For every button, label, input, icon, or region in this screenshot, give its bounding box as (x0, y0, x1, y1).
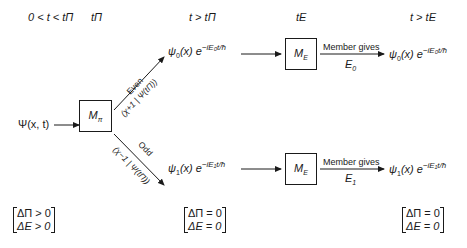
member-gives-top-label: Member gives (323, 42, 380, 52)
state-odd-after-parity: ψ1(x) e−iE₁t/ħ (168, 160, 225, 176)
parity-box-label: Mπ (80, 109, 111, 123)
condition-before-parity: ΔΠ > 0 ΔE > 0 (13, 207, 55, 233)
member-gives-bottom-value: E1 (345, 172, 356, 186)
condition-after-parity: ΔΠ = 0 ΔE = 0 (184, 207, 226, 233)
connector-lines (0, 0, 467, 248)
parity-measurement-box: Mπ (79, 100, 112, 132)
state-final-even: ψ0(x) e−iE₀t/ħ (389, 46, 447, 62)
state-final-odd: ψ1(x) e−iE₁t/ħ (389, 161, 446, 177)
condition-after-energy: ΔΠ = 0 ΔE = 0 (402, 207, 444, 233)
state-even-after-parity: ψ0(x) e−iE₀t/ħ (168, 43, 226, 59)
energy-box-top-label: ME (286, 47, 316, 61)
member-gives-bottom-label: Member gives (323, 157, 380, 167)
energy-measurement-box-top: ME (285, 38, 317, 70)
input-state-label: Ψ(x, t) (18, 118, 49, 130)
member-gives-top-value: E0 (345, 58, 356, 72)
energy-box-bottom-label: ME (286, 162, 316, 176)
energy-measurement-box-bottom: ME (285, 153, 317, 185)
